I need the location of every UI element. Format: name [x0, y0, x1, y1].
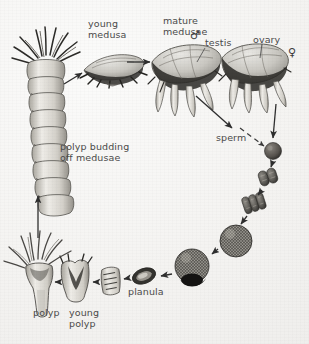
label-testis: testis [205, 38, 231, 49]
stage-gastrula [175, 249, 209, 287]
arrow-four-cell-to-blastula [241, 216, 247, 224]
arrow-egg-to-two-cell [271, 161, 273, 167]
label-sperm: sperm [216, 133, 246, 144]
stage-four-cell [241, 192, 267, 215]
stage-mature-medusa-female [219, 44, 291, 113]
arrow-planula-to-settling [124, 278, 129, 279]
stage-strobila [12, 27, 80, 216]
stage-two-cell [257, 167, 279, 187]
life-cycle-diagram: young medusamature medusaetestisovaryspe… [0, 0, 309, 344]
stage-egg [265, 143, 282, 160]
female-symbol: ♀ [288, 47, 296, 58]
stage-blastula [220, 225, 252, 257]
label-young-medusa: young medusa [88, 19, 127, 40]
label-ovary: ovary [253, 35, 280, 46]
label-polyp-budding: polyp budding off medusae [60, 142, 129, 163]
label-mature-medusae: mature medusae [163, 16, 207, 37]
stage-settling-larva [100, 266, 122, 295]
arrow-ovary-to-egg [273, 104, 276, 138]
arrow-strobila-to-young-medusa [64, 73, 82, 84]
stage-planula [130, 265, 158, 287]
label-planula: planula [128, 287, 164, 298]
male-symbol: ♂ [190, 30, 200, 41]
stage-young-polyp [60, 254, 92, 302]
label-polyp: polyp [33, 308, 60, 319]
arrow-blastula-to-gastrula [212, 249, 218, 254]
arrow-medusa-to-sperm [196, 96, 232, 128]
stage-young-medusa [80, 55, 147, 88]
arrow-gastrula-to-planula [161, 274, 172, 276]
stage-mature-medusa-male [148, 45, 222, 117]
label-young-polyp: young polyp [69, 308, 99, 329]
